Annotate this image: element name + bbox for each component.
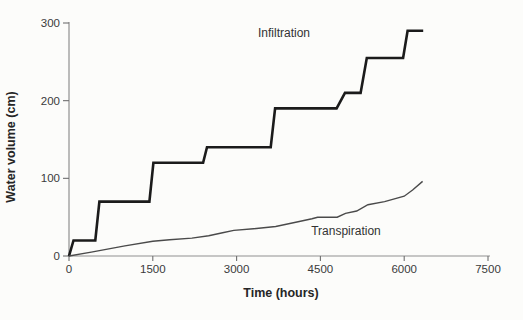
series-line-infiltration bbox=[69, 31, 423, 256]
y-tick-label: 100 bbox=[41, 172, 60, 184]
plot-layer: 0100200300015003000450060007500 bbox=[41, 17, 501, 275]
y-axis-title: Water volume (cm) bbox=[4, 91, 18, 202]
x-tick-label: 0 bbox=[66, 263, 72, 275]
x-tick-label: 4500 bbox=[308, 263, 334, 275]
x-tick-label: 1500 bbox=[140, 263, 166, 275]
y-tick-label: 200 bbox=[41, 95, 60, 107]
y-tick-label: 0 bbox=[54, 250, 60, 262]
x-axis-title: Time (hours) bbox=[243, 286, 318, 300]
x-tick-label: 3000 bbox=[224, 263, 250, 275]
x-tick-label: 6000 bbox=[391, 263, 417, 275]
chart-figure: 0100200300015003000450060007500 Water vo… bbox=[0, 0, 523, 320]
series-label-infiltration: Infiltration bbox=[258, 26, 310, 40]
y-tick-label: 300 bbox=[41, 17, 60, 29]
x-tick-label: 7500 bbox=[475, 263, 501, 275]
series-label-transpiration: Transpiration bbox=[311, 224, 381, 238]
water-volume-chart: 0100200300015003000450060007500 Water vo… bbox=[0, 0, 523, 320]
series-line-transpiration bbox=[69, 181, 423, 256]
